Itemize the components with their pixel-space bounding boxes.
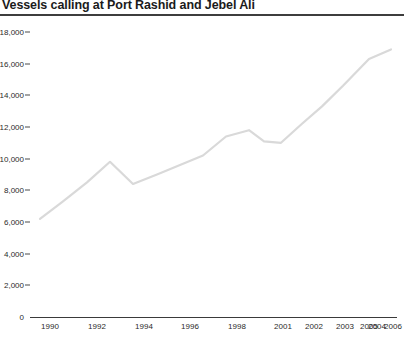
- plot-area: 02,0004,0006,0008,00010,00012,00014,0001…: [0, 0, 404, 345]
- series-line-vessels-calling: [40, 49, 391, 218]
- x-axis-baseline: [30, 317, 397, 318]
- series-line-chart: [0, 0, 404, 345]
- chart-figure: Vessels calling at Port Rashid and Jebel…: [0, 0, 404, 345]
